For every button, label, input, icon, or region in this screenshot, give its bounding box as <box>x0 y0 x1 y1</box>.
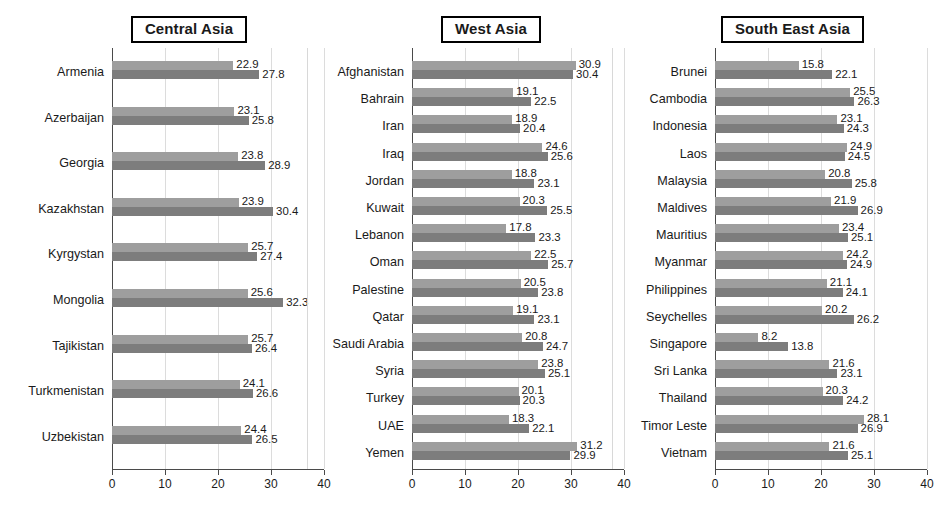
bar-value-label: 23.8 <box>541 287 563 298</box>
chart-row: Kuwait20.325.5 <box>310 192 620 219</box>
bar-series-1 <box>112 107 234 116</box>
bar-value-label: 20.3 <box>826 385 848 396</box>
bar-value-label: 25.1 <box>548 368 570 379</box>
x-tick-0 <box>412 470 413 475</box>
bar-value-label: 23.3 <box>538 232 560 243</box>
chart-row: Bahrain19.122.5 <box>310 83 620 110</box>
category-label: Kuwait <box>366 202 404 215</box>
bar-series-2 <box>412 70 573 79</box>
bar-value-label: 20.8 <box>828 168 850 179</box>
chart-row: Turkey20.120.3 <box>310 382 620 409</box>
bar-value-label: 30.4 <box>276 206 298 217</box>
bar-value-label: 25.7 <box>551 259 573 270</box>
bar-group: 23.825.1 <box>412 359 620 382</box>
bar-series-1 <box>112 289 248 298</box>
bar-group: 30.930.4 <box>412 60 620 83</box>
x-tick-label: 20 <box>211 478 224 490</box>
bar-series-1 <box>715 61 799 70</box>
chart-row: Tajikistan25.726.4 <box>0 330 310 376</box>
bar-series-1 <box>715 251 843 260</box>
bar-value-label: 24.7 <box>546 341 568 352</box>
chart-row: Cambodia25.526.3 <box>620 83 925 110</box>
bar-series-2 <box>715 179 852 188</box>
bar-value-label: 24.2 <box>846 395 868 406</box>
chart-row: Afghanistan30.930.4 <box>310 56 620 83</box>
category-label: Vietnam <box>661 447 707 460</box>
chart-row: Oman22.525.7 <box>310 246 620 273</box>
bar-value-label: 24.5 <box>848 151 870 162</box>
bar-group: 23.425.1 <box>715 223 925 246</box>
bar-value-label: 30.4 <box>576 69 598 80</box>
bar-group: 20.226.2 <box>715 305 925 328</box>
bar-series-2 <box>715 260 847 269</box>
chart-row: Thailand20.324.2 <box>620 382 925 409</box>
bar-group: 23.124.3 <box>715 114 925 137</box>
bar-group: 24.426.5 <box>112 425 310 467</box>
category-label: Timor Leste <box>641 420 707 433</box>
bar-group: 22.525.7 <box>412 250 620 273</box>
bar-series-2 <box>412 152 548 161</box>
x-tick-label: 0 <box>409 478 416 490</box>
x-tick-label: 10 <box>761 478 774 490</box>
bar-group: 23.125.8 <box>112 106 310 148</box>
chart-row: Seychelles20.226.2 <box>620 301 925 328</box>
bar-group: 24.126.6 <box>112 379 310 421</box>
category-label: Kazakhstan <box>38 203 104 216</box>
bar-group: 19.122.5 <box>412 87 620 110</box>
bar-series-1 <box>715 279 827 288</box>
category-label: Sri Lanka <box>654 365 707 378</box>
bar-series-1 <box>412 88 513 97</box>
bar-series-1 <box>715 197 831 206</box>
panel-title: South East Asia <box>721 16 864 43</box>
bar-group: 20.824.7 <box>412 332 620 355</box>
bar-value-label: 23.8 <box>241 150 263 161</box>
bar-group: 20.825.8 <box>715 169 925 192</box>
bar-series-1 <box>412 415 509 424</box>
chart-row: Azerbaijan23.125.8 <box>0 102 310 148</box>
bar-series-1 <box>715 224 839 233</box>
chart-row: Indonesia23.124.3 <box>620 110 925 137</box>
bar-value-label: 26.4 <box>255 343 277 354</box>
chart-row: Timor Leste28.126.9 <box>620 410 925 437</box>
bar-group: 19.123.1 <box>412 305 620 328</box>
bar-value-label: 20.8 <box>525 331 547 342</box>
bar-value-label: 26.3 <box>857 96 879 107</box>
bar-series-1 <box>715 333 758 342</box>
category-label: Seychelles <box>646 311 707 324</box>
category-label: Philippines <box>646 284 707 297</box>
bar-series-1 <box>715 360 829 369</box>
x-tick-10 <box>768 470 769 475</box>
bar-series-1 <box>412 442 577 451</box>
category-label: Armenia <box>57 66 104 79</box>
bar-series-2 <box>715 233 848 242</box>
category-label: Mauritius <box>656 229 707 242</box>
x-tick-label: 0 <box>109 478 116 490</box>
bar-series-2 <box>112 252 257 261</box>
bar-series-1 <box>412 251 531 260</box>
bar-value-label: 23.1 <box>537 178 559 189</box>
category-label: Syria <box>375 365 404 378</box>
x-tick-40 <box>927 470 928 475</box>
category-label: Turkmenistan <box>28 385 104 398</box>
chart-row: Iraq24.625.6 <box>310 138 620 165</box>
bar-series-1 <box>412 224 506 233</box>
chart-row: Kazakhstan23.930.4 <box>0 193 310 239</box>
category-label: Myanmar <box>655 256 707 269</box>
bar-group: 31.229.9 <box>412 441 620 464</box>
bar-group: 23.828.9 <box>112 151 310 193</box>
bar-group: 18.920.4 <box>412 114 620 137</box>
category-label: Saudi Arabia <box>333 338 404 351</box>
bar-series-2 <box>715 342 788 351</box>
bar-series-2 <box>715 124 844 133</box>
bar-value-label: 8.2 <box>761 331 777 342</box>
bar-series-1 <box>715 387 823 396</box>
bar-series-1 <box>412 197 520 206</box>
x-tick-label: 10 <box>158 478 171 490</box>
bar-series-1 <box>715 143 847 152</box>
category-label: Brunei <box>671 66 707 79</box>
x-tick-0 <box>715 470 716 475</box>
chart-row: Sri Lanka21.623.1 <box>620 355 925 382</box>
bar-value-label: 29.9 <box>573 450 595 461</box>
category-label: Laos <box>680 148 707 161</box>
